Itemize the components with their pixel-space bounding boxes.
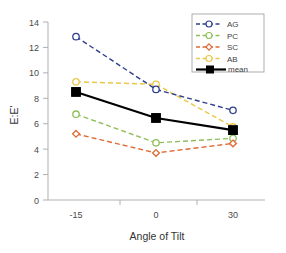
legend-swatch-marker-mean xyxy=(207,66,214,73)
x-tick-label: -15 xyxy=(69,210,82,220)
x-axis-ticks xyxy=(120,200,197,205)
y-tick-label: 6 xyxy=(34,119,39,129)
y-tick-label: 0 xyxy=(34,196,39,206)
legend-label-AG: AG xyxy=(227,20,239,29)
data-point-AG xyxy=(230,107,236,113)
legend-label-SC: SC xyxy=(227,43,238,52)
data-point-PC xyxy=(73,111,79,117)
series-mean xyxy=(72,88,238,135)
legend-label-mean: mean xyxy=(228,65,248,74)
x-tick-label: 0 xyxy=(153,210,158,220)
data-point-PC xyxy=(153,140,159,146)
legend-swatch-marker-PC xyxy=(206,33,212,39)
data-point-mean xyxy=(72,88,81,97)
data-point-AB xyxy=(73,79,79,85)
legend-label-AB: AB xyxy=(227,55,238,64)
y-axis-tick-labels: 14 12 10 8 6 4 2 0 xyxy=(29,18,39,206)
line-chart: 14 12 10 8 6 4 2 0 -15 0 30 Angle of Til… xyxy=(0,0,286,253)
data-point-AG xyxy=(153,86,159,92)
data-point-mean xyxy=(152,114,161,123)
y-tick-label: 2 xyxy=(34,170,39,180)
y-tick-label: 12 xyxy=(29,43,39,53)
chart-container: 14 12 10 8 6 4 2 0 -15 0 30 Angle of Til… xyxy=(0,0,286,253)
legend-swatch-marker-AG xyxy=(206,21,212,27)
data-point-SC xyxy=(153,150,160,157)
legend-swatch-marker-AB xyxy=(206,56,212,62)
x-axis-tick-labels: -15 0 30 xyxy=(69,210,238,220)
data-point-SC xyxy=(73,131,80,138)
series-line-mean xyxy=(76,92,233,130)
data-point-mean xyxy=(229,126,238,135)
y-tick-label: 8 xyxy=(34,94,39,104)
x-axis-title: Angle of Tilt xyxy=(130,230,185,242)
y-tick-label: 4 xyxy=(34,145,39,155)
y-axis-ticks xyxy=(43,22,48,200)
data-point-AG xyxy=(73,33,79,39)
y-axis-title: E:E' xyxy=(8,106,20,125)
y-tick-label: 14 xyxy=(29,18,39,28)
legend-label-PC: PC xyxy=(227,32,238,41)
y-tick-label: 10 xyxy=(29,68,39,78)
chart-legend: AG PC SC AB xyxy=(192,14,264,74)
x-tick-label: 30 xyxy=(228,210,238,220)
